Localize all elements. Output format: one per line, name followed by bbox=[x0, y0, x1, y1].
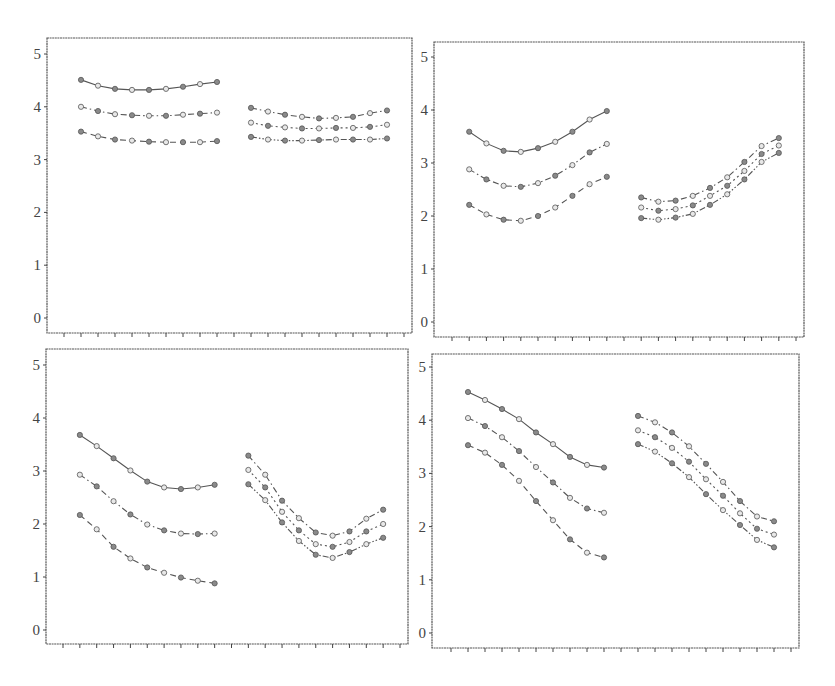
y-tick-label: 0 bbox=[33, 622, 41, 638]
data-point-marker bbox=[282, 112, 287, 117]
data-point-marker bbox=[180, 112, 185, 117]
data-point-marker bbox=[465, 389, 470, 394]
data-point-marker bbox=[94, 484, 99, 489]
data-point-marker bbox=[195, 485, 200, 490]
data-point-marker bbox=[384, 108, 389, 113]
data-point-marker bbox=[163, 86, 168, 91]
data-point-marker bbox=[501, 148, 506, 153]
data-point-marker bbox=[482, 397, 487, 402]
data-point-marker bbox=[95, 83, 100, 88]
data-point-marker bbox=[484, 177, 489, 182]
data-point-marker bbox=[246, 482, 251, 487]
data-point-marker bbox=[499, 462, 504, 467]
data-point-marker bbox=[635, 413, 640, 418]
data-point-marker bbox=[279, 498, 284, 503]
data-point-marker bbox=[725, 192, 730, 197]
data-point-marker bbox=[550, 518, 555, 523]
y-tick-label: 4 bbox=[33, 410, 41, 426]
data-point-marker bbox=[367, 124, 372, 129]
data-point-marker bbox=[516, 478, 521, 483]
data-point-marker bbox=[364, 516, 369, 521]
data-point-marker bbox=[265, 109, 270, 114]
data-point-marker bbox=[195, 531, 200, 536]
data-point-marker bbox=[584, 550, 589, 555]
data-point-marker bbox=[197, 81, 202, 86]
data-point-marker bbox=[197, 111, 202, 116]
data-point-marker bbox=[111, 544, 116, 549]
data-point-marker bbox=[776, 135, 781, 140]
data-point-marker bbox=[635, 442, 640, 447]
data-point-marker bbox=[737, 498, 742, 503]
series-line bbox=[638, 416, 774, 521]
series-line bbox=[248, 456, 383, 536]
data-point-marker bbox=[656, 217, 661, 222]
data-point-marker bbox=[601, 465, 606, 470]
data-point-marker bbox=[570, 129, 575, 134]
data-point-marker bbox=[703, 492, 708, 497]
data-point-marker bbox=[482, 450, 487, 455]
data-point-marker bbox=[587, 150, 592, 155]
data-point-marker bbox=[465, 415, 470, 420]
data-point-marker bbox=[381, 521, 386, 526]
data-point-marker bbox=[754, 537, 759, 542]
data-point-marker bbox=[146, 139, 151, 144]
data-point-marker bbox=[535, 146, 540, 151]
data-point-marker bbox=[759, 159, 764, 164]
data-point-marker bbox=[707, 202, 712, 207]
data-point-marker bbox=[333, 137, 338, 142]
data-point-marker bbox=[771, 532, 776, 537]
y-tick-label: 5 bbox=[421, 49, 429, 65]
data-point-marker bbox=[686, 444, 691, 449]
data-point-marker bbox=[501, 217, 506, 222]
data-point-marker bbox=[282, 125, 287, 130]
data-point-marker bbox=[669, 445, 674, 450]
series-line bbox=[638, 430, 774, 534]
data-point-marker bbox=[77, 472, 82, 477]
data-point-marker bbox=[246, 467, 251, 472]
data-point-marker bbox=[550, 442, 555, 447]
data-point-marker bbox=[384, 136, 389, 141]
data-point-marker bbox=[129, 113, 134, 118]
data-point-marker bbox=[316, 137, 321, 142]
data-point-marker bbox=[384, 122, 389, 127]
data-point-marker bbox=[553, 205, 558, 210]
plot-frame bbox=[46, 349, 408, 644]
data-point-marker bbox=[112, 112, 117, 117]
data-point-marker bbox=[570, 163, 575, 168]
data-point-marker bbox=[330, 555, 335, 560]
y-tick-label: 3 bbox=[33, 463, 41, 479]
data-point-marker bbox=[533, 498, 538, 503]
data-point-marker bbox=[759, 151, 764, 156]
data-point-marker bbox=[212, 581, 217, 586]
data-point-marker bbox=[533, 430, 538, 435]
data-point-marker bbox=[535, 213, 540, 218]
data-point-marker bbox=[265, 123, 270, 128]
data-point-marker bbox=[725, 183, 730, 188]
data-point-marker bbox=[145, 479, 150, 484]
data-point-marker bbox=[350, 137, 355, 142]
data-point-marker bbox=[771, 519, 776, 524]
y-tick-label: 5 bbox=[33, 357, 41, 373]
data-point-marker bbox=[197, 140, 202, 145]
data-point-marker bbox=[771, 545, 776, 550]
data-point-marker bbox=[145, 522, 150, 527]
data-point-marker bbox=[313, 542, 318, 547]
data-point-marker bbox=[195, 578, 200, 583]
data-point-marker bbox=[214, 110, 219, 115]
data-point-marker bbox=[584, 506, 589, 511]
y-tick-label: 1 bbox=[419, 572, 427, 588]
data-point-marker bbox=[516, 417, 521, 422]
data-point-marker bbox=[742, 168, 747, 173]
data-point-marker bbox=[347, 539, 352, 544]
data-point-marker bbox=[212, 531, 217, 536]
data-point-marker bbox=[248, 105, 253, 110]
y-tick-label: 1 bbox=[33, 569, 41, 585]
data-point-marker bbox=[263, 498, 268, 503]
y-tick-label: 2 bbox=[419, 519, 427, 535]
data-point-marker bbox=[570, 193, 575, 198]
data-point-marker bbox=[673, 207, 678, 212]
data-point-marker bbox=[330, 544, 335, 549]
data-point-marker bbox=[214, 139, 219, 144]
data-point-marker bbox=[754, 514, 759, 519]
data-point-marker bbox=[635, 428, 640, 433]
